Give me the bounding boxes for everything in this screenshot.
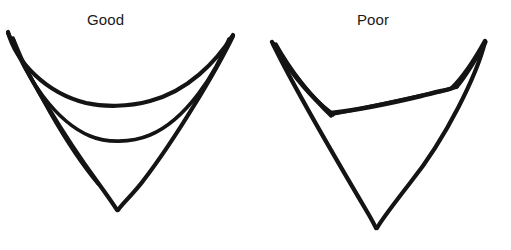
- panel-label-poor: Poor: [357, 11, 389, 28]
- good-outer-left-limb: [8, 33, 117, 210]
- good-inner-curve: [13, 38, 229, 141]
- poor-outer-right-rise: [452, 41, 485, 88]
- good-outer-right-limb: [118, 36, 233, 210]
- line-drawing-canvas: [0, 0, 511, 250]
- poor-inner-upper-long: [333, 87, 457, 114]
- poor-left-limb: [273, 44, 376, 228]
- figure-root: Good Poor: [0, 0, 511, 250]
- good-shape-group: [8, 32, 233, 210]
- panel-label-good: Good: [87, 11, 124, 28]
- poor-shape-group: [272, 41, 486, 228]
